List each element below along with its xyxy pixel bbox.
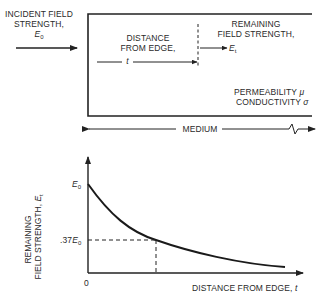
y-axis-label: REMAINING FIELD STRENGTH, Et (23, 200, 46, 280)
remaining-line2: FIELD STRENGTH, (206, 29, 306, 39)
permeability-label: PERMEABILITY μ (234, 87, 304, 97)
incident-line2: STRENGTH, (0, 19, 78, 29)
medium-label: MEDIUM (180, 124, 220, 134)
incident-line1: INCIDENT FIELD (0, 9, 78, 19)
y-tick-037e0: .37E0 (60, 235, 81, 248)
y-tick-e0: E0 (72, 179, 81, 192)
distance-line2: FROM EDGE, (108, 43, 188, 53)
remaining-label: REMAINING FIELD STRENGTH, (206, 19, 306, 39)
distance-label: DISTANCE FROM EDGE, (108, 33, 188, 53)
incident-label: INCIDENT FIELD STRENGTH, E0 (0, 9, 78, 42)
y-axis-label-line2: FIELD STRENGTH, Et (33, 200, 46, 280)
x-origin-label: 0 (84, 278, 89, 288)
y-axis-label-line1: REMAINING (23, 200, 33, 280)
decay-curve (88, 184, 285, 267)
conductivity-label: CONDUCTIVITY σ (236, 97, 309, 107)
x-axis-label: DISTANCE FROM EDGE, t (192, 283, 297, 293)
incident-symbol: E0 (0, 29, 78, 42)
remaining-line1: REMAINING (206, 19, 306, 29)
distance-line1: DISTANCE (108, 33, 188, 43)
distance-symbol: t (122, 56, 133, 66)
remaining-symbol: Et (229, 43, 237, 56)
